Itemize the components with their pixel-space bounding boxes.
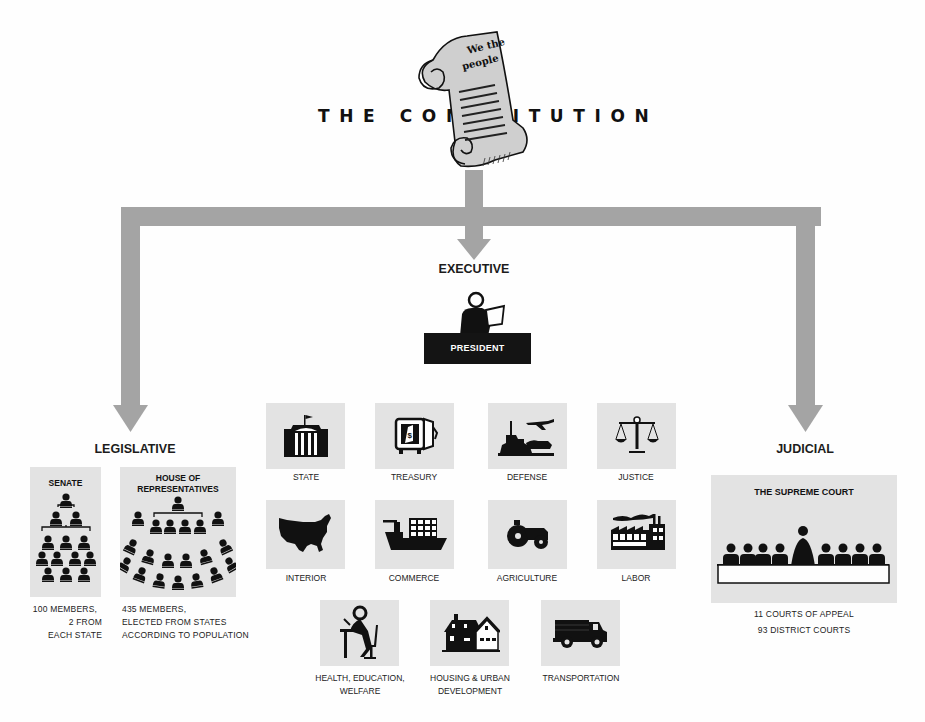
dept-transportation-label: TRANSPORTATION: [526, 672, 636, 685]
dept-defense-label: DEFENSE: [472, 471, 582, 484]
dept-commerce-label: COMMERCE: [359, 572, 469, 585]
dept-justice-label: JUSTICE: [581, 471, 691, 484]
battleship-plane-tank-icon: [498, 413, 558, 461]
house-members-icon: [120, 495, 236, 595]
executive-heading: EXECUTIVE: [424, 262, 524, 276]
house-caption: 435 MEMBERS, ELECTED FROM STATES ACCORDI…: [122, 603, 262, 642]
dept-agriculture-panel: [488, 500, 567, 569]
supreme-court-justices-icon: [717, 520, 891, 586]
judicial-heading: JUDICIAL: [755, 442, 855, 456]
factory-icon: [609, 510, 667, 556]
house-title: HOUSE OF REPRESENTATIVES: [120, 473, 236, 495]
safe-icon: $: [393, 415, 439, 459]
cargo-ship-icon: [381, 516, 449, 552]
dept-hew-label: HEALTH, EDUCATION, WELFARE: [305, 672, 415, 698]
dept-housing-label: HOUSING & URBAN DEVELOPMENT: [415, 672, 525, 698]
supreme-court-panel: THE SUPREME COURT: [711, 475, 897, 603]
dept-justice-panel: [597, 403, 676, 469]
legislative-heading: LEGISLATIVE: [80, 442, 190, 456]
capitol-building-icon: [283, 413, 329, 459]
dept-commerce-panel: [375, 500, 454, 569]
president-label: PRESIDENT: [424, 333, 531, 364]
dept-agriculture-label: AGRICULTURE: [472, 572, 582, 585]
dept-labor-label: LABOR: [581, 572, 691, 585]
dept-interior-label: INTERIOR: [251, 572, 361, 585]
dept-hew-panel: [320, 600, 399, 666]
dept-defense-panel: [488, 403, 567, 469]
dept-treasury-panel: $: [375, 403, 454, 469]
president-figure-icon: [452, 290, 512, 336]
supreme-court-title: THE SUPREME COURT: [711, 487, 897, 498]
houses-icon: [442, 612, 500, 654]
svg-text:$: $: [408, 431, 413, 440]
dept-state-label: STATE: [251, 471, 361, 484]
person-at-desk-icon: [338, 605, 382, 663]
dept-treasury-label: TREASURY: [359, 471, 469, 484]
truck-icon: [553, 616, 609, 650]
house-panel: HOUSE OF REPRESENTATIVES: [120, 467, 236, 597]
dept-housing-panel: [430, 600, 509, 666]
constitution-scroll-icon: We the people: [405, 30, 545, 180]
us-map-icon: [277, 512, 335, 556]
senate-caption: 100 MEMBERS, 2 FROM EACH STATE: [24, 603, 106, 642]
scales-icon: [615, 413, 659, 457]
senate-panel: SENATE: [30, 467, 101, 597]
senate-title: SENATE: [30, 478, 101, 489]
judicial-caption: 11 COURTS OF APPEAL 93 DISTRICT COURTS: [711, 608, 897, 637]
dept-labor-panel: [597, 500, 676, 569]
dept-state-panel: [266, 403, 345, 469]
tractor-icon: [506, 518, 550, 550]
dept-interior-panel: [266, 500, 345, 569]
president-box: PRESIDENT: [424, 333, 531, 364]
dept-transportation-panel: [541, 600, 620, 666]
senate-members-icon: [34, 491, 98, 591]
